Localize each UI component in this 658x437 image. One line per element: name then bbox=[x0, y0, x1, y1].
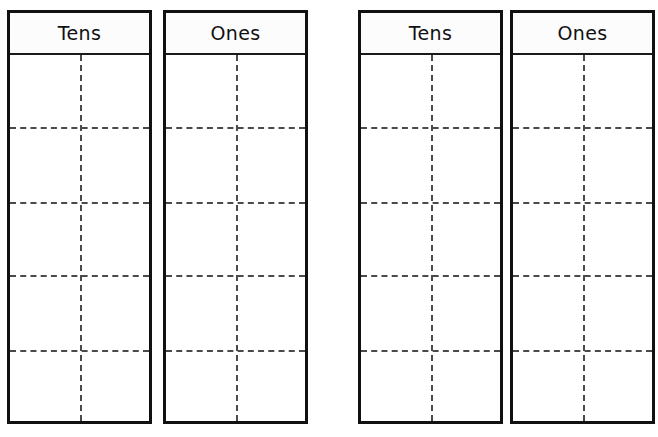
chart-header-tens-2: Tens bbox=[361, 13, 500, 55]
chart-header-label: Ones bbox=[210, 24, 260, 43]
horizontal-dashed-line-2 bbox=[513, 202, 652, 204]
chart-body-tens-1 bbox=[10, 55, 149, 421]
chart-header-ones-2: Ones bbox=[513, 13, 652, 55]
chart-header-ones-1: Ones bbox=[166, 13, 305, 55]
horizontal-dashed-line-2 bbox=[10, 202, 149, 204]
vertical-dashed-divider bbox=[236, 55, 238, 421]
horizontal-dashed-line-2 bbox=[361, 202, 500, 204]
horizontal-dashed-line-3 bbox=[513, 275, 652, 277]
horizontal-dashed-line-4 bbox=[513, 350, 652, 352]
horizontal-dashed-line-3 bbox=[10, 275, 149, 277]
horizontal-dashed-line-1 bbox=[361, 127, 500, 129]
horizontal-dashed-line-3 bbox=[166, 275, 305, 277]
place-value-worksheet: Tens Ones Tens bbox=[0, 0, 658, 437]
chart-header-label: Tens bbox=[409, 24, 453, 43]
horizontal-dashed-line-4 bbox=[361, 350, 500, 352]
chart-body-tens-2 bbox=[361, 55, 500, 421]
place-value-chart-tens-1: Tens bbox=[7, 10, 152, 424]
chart-header-label: Tens bbox=[58, 24, 102, 43]
chart-body-ones-2 bbox=[513, 55, 652, 421]
vertical-dashed-divider bbox=[583, 55, 585, 421]
chart-header-label: Ones bbox=[557, 24, 607, 43]
horizontal-dashed-line-3 bbox=[361, 275, 500, 277]
horizontal-dashed-line-1 bbox=[513, 127, 652, 129]
vertical-dashed-divider bbox=[431, 55, 433, 421]
horizontal-dashed-line-1 bbox=[10, 127, 149, 129]
place-value-chart-ones-1: Ones bbox=[163, 10, 308, 424]
place-value-chart-tens-2: Tens bbox=[358, 10, 503, 424]
horizontal-dashed-line-2 bbox=[166, 202, 305, 204]
horizontal-dashed-line-4 bbox=[166, 350, 305, 352]
chart-body-ones-1 bbox=[166, 55, 305, 421]
horizontal-dashed-line-4 bbox=[10, 350, 149, 352]
place-value-chart-ones-2: Ones bbox=[510, 10, 655, 424]
vertical-dashed-divider bbox=[80, 55, 82, 421]
horizontal-dashed-line-1 bbox=[166, 127, 305, 129]
chart-header-tens-1: Tens bbox=[10, 13, 149, 55]
